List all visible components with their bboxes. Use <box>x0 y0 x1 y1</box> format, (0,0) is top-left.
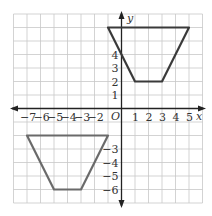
x-axis-left-arrow-icon <box>10 106 18 112</box>
x-tick-label: 1 <box>132 111 139 124</box>
x-tick-label: 4 <box>173 111 180 124</box>
y-tick-label: −3 <box>102 143 118 156</box>
x-tick-label: 5 <box>186 111 193 124</box>
x-tick-label: 3 <box>159 111 166 124</box>
y-axis-down-arrow-icon <box>119 200 125 208</box>
origin-label: O <box>111 110 120 123</box>
y-tick-label: −4 <box>102 157 118 170</box>
y-tick-label: −5 <box>102 170 118 183</box>
y-tick-label: 2 <box>112 76 119 89</box>
y-axis-up-arrow-icon <box>119 11 125 19</box>
x-axis-label: x <box>196 110 203 123</box>
y-tick-label: 1 <box>112 89 119 102</box>
y-tick-label: 3 <box>112 62 119 75</box>
coordinate-plane-figure: y x O −7−6−5−4−3−2123454321−3−4−5−6 <box>0 0 212 216</box>
coordinate-plane: y x O −7−6−5−4−3−2123454321−3−4−5−6 <box>0 0 212 216</box>
y-tick-label: 4 <box>112 49 119 62</box>
x-tick-label: 2 <box>146 111 153 124</box>
y-tick-label: −6 <box>102 184 118 197</box>
x-tick-label: −2 <box>88 111 104 124</box>
y-axis-label: y <box>126 12 134 25</box>
